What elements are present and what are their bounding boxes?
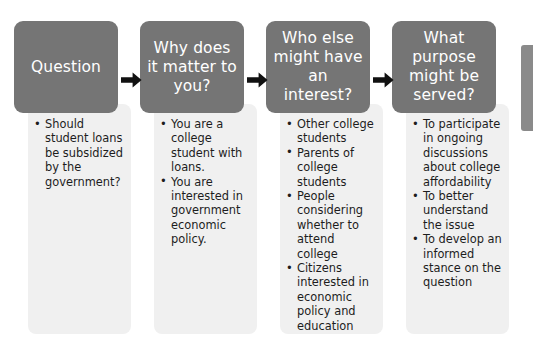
bullet-list: To participate in ongoing discussions ab… (412, 117, 502, 290)
list-item: You are interested in government economi… (160, 175, 250, 247)
right-arrow-icon (120, 68, 143, 91)
list-item: You are a college student with loans. (160, 117, 250, 175)
bullet-list: You are a college student with loans.You… (160, 117, 250, 247)
process-flow-diagram: QuestionShould student loans be subsidiz… (0, 0, 533, 350)
column-body-card-2: You are a college student with loans.You… (154, 104, 257, 334)
right-arrow-icon (246, 68, 269, 91)
list-item: Should student loans be subsidized by th… (34, 117, 124, 189)
column-header-label: What purpose might be served? (398, 29, 490, 105)
list-item: People considering whether to attend col… (286, 189, 376, 261)
column-header-label: Who else might have an interest? (272, 29, 364, 105)
column-header-card-3: Who else might have an interest? (266, 21, 370, 113)
list-item: Parents of college students (286, 146, 376, 189)
list-item: To participate in ongoing discussions ab… (412, 117, 502, 189)
bullet-list: Should student loans be subsidized by th… (34, 117, 124, 189)
offscreen-card-edge (521, 45, 533, 131)
column-header-card-4: What purpose might be served? (392, 21, 496, 113)
column-body-card-1: Should student loans be subsidized by th… (28, 104, 131, 334)
column-header-card-1: Question (14, 21, 118, 113)
list-item: To better understand the issue (412, 189, 502, 232)
list-item: Other college students (286, 117, 376, 146)
column-header-label: Question (31, 58, 101, 77)
column-body-card-3: Other college studentsParents of college… (280, 104, 383, 334)
list-item: Citizens interested in economic policy a… (286, 261, 376, 333)
column-header-label: Why does it matter to you? (146, 39, 238, 96)
column-header-card-2: Why does it matter to you? (140, 21, 244, 113)
bullet-list: Other college studentsParents of college… (286, 117, 376, 333)
column-body-card-4: To participate in ongoing discussions ab… (406, 104, 509, 334)
right-arrow-icon (372, 68, 395, 91)
list-item: To develop an informed stance on the que… (412, 232, 502, 290)
